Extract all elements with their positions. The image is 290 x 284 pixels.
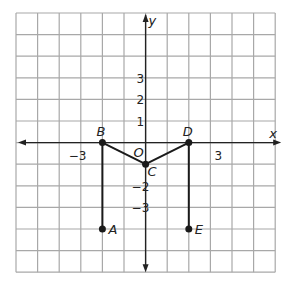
point-B (99, 139, 106, 146)
axes: xyO (18, 13, 281, 272)
point-label-D: D (183, 124, 193, 139)
point-label-E: E (195, 222, 204, 237)
point-label-C: C (148, 164, 158, 179)
point-D (185, 139, 192, 146)
labeled-points: ABCDE (96, 124, 203, 237)
y-tick-label: −3 (132, 201, 150, 215)
x-tick-label: 3 (214, 149, 222, 163)
x-tick-label: −3 (69, 149, 87, 163)
point-A (99, 226, 106, 233)
x-axis-left-arrow-icon (18, 140, 26, 146)
y-tick-label: 3 (137, 72, 145, 86)
x-axis-label: x (268, 126, 277, 141)
point-label-B: B (96, 124, 105, 139)
y-axis-label: y (148, 13, 157, 28)
y-tick-label: −2 (132, 180, 150, 194)
y-tick-label: 2 (137, 93, 145, 107)
coordinate-plane: xyO −33321−2−3 ABCDE (0, 0, 290, 284)
y-tick-label: 1 (137, 115, 145, 129)
origin-label: O (134, 145, 144, 160)
point-label-A: A (107, 222, 117, 237)
y-axis-down-arrow-icon (143, 264, 149, 272)
point-E (185, 226, 192, 233)
